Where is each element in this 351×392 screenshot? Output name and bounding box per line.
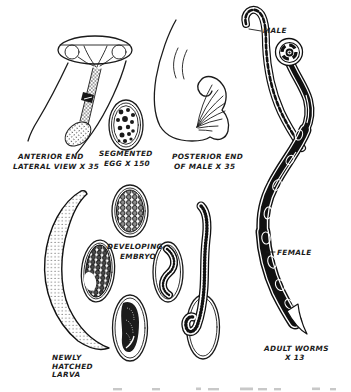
parasite-figure-page: ANTERIOR END LATERAL VIEW X 35 SEGMENTED… <box>0 0 351 392</box>
cephalic-alae-outline <box>58 36 132 64</box>
left-cephalic-lobe <box>65 45 79 59</box>
label-segmented-line2: EGG X 150 <box>104 159 150 168</box>
label-developing-line1: DEVELOPING <box>107 242 163 251</box>
posterior-end-illustration <box>154 20 228 141</box>
body-striation-1 <box>174 48 178 78</box>
label-segmented-egg: SEGMENTED EGG X 150 <box>99 149 153 168</box>
label-male: MALE <box>263 26 287 35</box>
figure-canvas: ANTERIOR END LATERAL VIEW X 35 SEGMENTED… <box>0 0 351 392</box>
male-leader-line <box>249 29 261 31</box>
emerging-larva <box>186 206 207 332</box>
label-female: FEMALE <box>277 248 312 257</box>
cutoff-caption-remnants <box>113 388 336 391</box>
label-anterior-end: ANTERIOR END LATERAL VIEW X 35 <box>13 152 99 171</box>
label-posterior-end: POSTERIOR END OF MALE X 35 <box>172 152 243 171</box>
label-adult-worms-line2: X 13 <box>284 353 305 362</box>
body-striation-2 <box>182 50 187 79</box>
label-posterior-line1: POSTERIOR END <box>172 152 243 161</box>
label-anterior-line2: LATERAL VIEW X 35 <box>13 162 99 171</box>
label-posterior-line2: OF MALE X 35 <box>174 162 235 171</box>
label-newly-hatched-larva: NEWLY HATCHED LARVA <box>52 353 93 379</box>
body-outline-left <box>28 63 68 141</box>
right-cephalic-lobe <box>112 45 126 59</box>
egg-morula <box>112 185 148 237</box>
label-adult-worms-line1: ADULT WORMS <box>263 344 329 353</box>
posterior-outline <box>154 20 228 141</box>
label-developing-line2: EMBRYO <box>120 252 156 261</box>
egg-coiled-embryo <box>153 242 183 302</box>
label-larva-line3: LARVA <box>52 370 80 379</box>
female-coiled-end <box>276 39 303 66</box>
egg-tadpole-larva <box>113 295 148 361</box>
segmented-egg-illustration <box>109 100 143 150</box>
label-segmented-line1: SEGMENTED <box>99 149 153 158</box>
hatching-egg <box>186 206 220 359</box>
egg-early-embryo <box>79 239 117 304</box>
label-anterior-line1: ANTERIOR END <box>17 152 84 161</box>
segmented-cells <box>116 108 135 143</box>
esophageal-bulb <box>60 117 95 151</box>
adult-worms-illustration: MALE FEMALE ADULT WORMS X 13 <box>245 10 328 362</box>
